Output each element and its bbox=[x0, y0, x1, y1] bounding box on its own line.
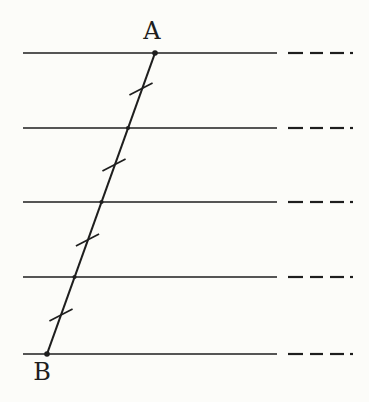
point-label-a: A bbox=[143, 19, 160, 43]
endpoint-dot bbox=[152, 50, 158, 56]
point-label-b: B bbox=[33, 360, 51, 384]
tick-mark bbox=[49, 309, 72, 321]
intersection-dot bbox=[99, 200, 103, 204]
endpoint-dot bbox=[44, 351, 50, 357]
intersection-dot bbox=[126, 126, 130, 130]
geometry-figure: A B bbox=[0, 0, 369, 402]
figure-svg bbox=[0, 0, 369, 402]
intersection-dot bbox=[72, 275, 76, 279]
